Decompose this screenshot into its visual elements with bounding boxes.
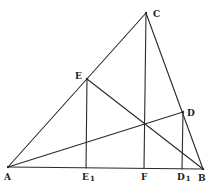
label-e1-main: E xyxy=(82,172,89,182)
label-e: E xyxy=(75,71,82,81)
label-c: C xyxy=(153,9,160,19)
label-e1: E1 xyxy=(82,172,95,183)
segment-ee1 xyxy=(86,79,87,168)
label-e1-sub: 1 xyxy=(90,174,95,183)
point-d xyxy=(182,111,184,113)
label-b: B xyxy=(198,173,206,183)
point-a xyxy=(7,166,9,168)
segment-ad xyxy=(8,112,183,167)
side-ab xyxy=(8,167,203,169)
point-e xyxy=(86,78,88,80)
label-d1: D1 xyxy=(177,172,191,183)
segment-dd1 xyxy=(182,112,183,169)
point-b xyxy=(202,168,204,170)
triangle-diagram: C E D A F B E1 D1 xyxy=(0,0,213,188)
label-d1-sub: 1 xyxy=(186,174,191,183)
side-bc xyxy=(146,13,203,169)
label-f: F xyxy=(141,172,148,182)
side-ca xyxy=(8,13,146,167)
label-a: A xyxy=(3,172,12,182)
segment-cf xyxy=(144,13,146,168)
label-d1-main: D xyxy=(177,172,185,182)
label-d: D xyxy=(187,108,195,118)
point-c xyxy=(145,12,147,14)
